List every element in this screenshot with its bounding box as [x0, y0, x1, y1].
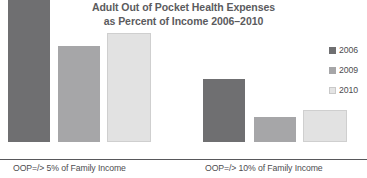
legend-label-2010: 2010	[339, 86, 358, 95]
bar-2010-oop-5	[107, 33, 151, 142]
x-axis-line	[0, 159, 367, 160]
legend-swatch-icon-2009	[329, 67, 336, 74]
bar-chart: Adult Out of Pocket Health Expenses as P…	[0, 0, 367, 178]
bar-2009-oop-10	[254, 117, 296, 142]
legend-label-2006: 2006	[339, 46, 358, 55]
bar-2009-oop-5	[58, 46, 100, 142]
category-label-oop-10: OOP=/> 10% of Family Income	[205, 163, 323, 173]
bar-2006-oop-10	[203, 79, 245, 142]
legend-item-2006: 2006	[329, 42, 367, 58]
legend-swatch-icon-2006	[329, 47, 336, 54]
category-label-oop-5: OOP=/> 5% of Family Income	[13, 163, 126, 173]
bar-2010-oop-10	[303, 110, 347, 142]
chart-legend: 2006 2009 2010	[329, 42, 367, 102]
legend-swatch-icon-2010	[329, 87, 336, 94]
plot-area	[0, 0, 367, 160]
legend-label-2009: 2009	[339, 66, 358, 75]
legend-item-2010: 2010	[329, 82, 367, 98]
legend-item-2009: 2009	[329, 62, 367, 78]
bar-2006-oop-5	[8, 0, 50, 142]
